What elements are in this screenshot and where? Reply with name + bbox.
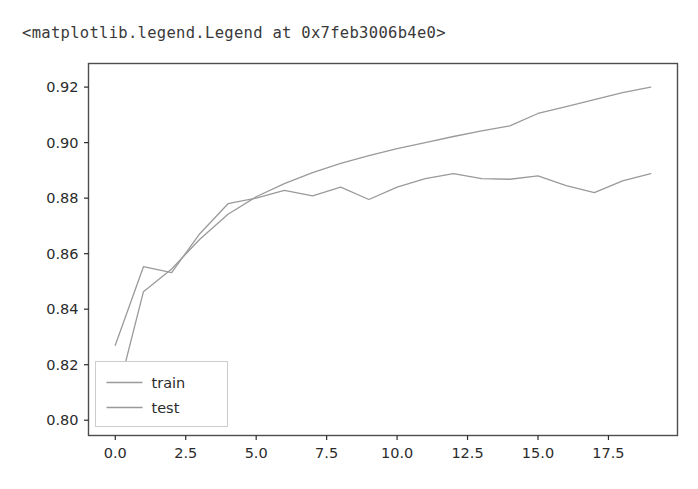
y-tick-label: 0.90: [46, 135, 78, 151]
notebook-output-cell: <matplotlib.legend.Legend at 0x7feb3006b…: [0, 0, 698, 489]
x-tick-label: 0.0: [104, 445, 127, 461]
y-tick-label: 0.92: [46, 79, 78, 95]
x-tick-label: 5.0: [245, 445, 268, 461]
x-tick-label: 7.5: [315, 445, 338, 461]
x-tick-label: 12.5: [451, 445, 483, 461]
legend-frame: [96, 362, 228, 427]
repr-output-text: <matplotlib.legend.Legend at 0x7feb3006b…: [22, 24, 446, 42]
legend-label-test: test: [152, 400, 180, 416]
y-tick-label: 0.86: [46, 246, 78, 262]
legend-label-train: train: [152, 375, 186, 391]
line-chart: 0.800.820.840.860.880.900.92 0.02.55.07.…: [0, 52, 698, 489]
y-tick-label: 0.80: [46, 412, 78, 428]
y-tick-label: 0.88: [46, 190, 78, 206]
y-tick-label: 0.82: [46, 357, 78, 373]
x-tick-label: 2.5: [174, 445, 197, 461]
x-tick-label: 15.0: [522, 445, 554, 461]
chart-legend[interactable]: traintest: [96, 362, 228, 427]
x-tick-label: 10.0: [381, 445, 413, 461]
y-tick-label: 0.84: [46, 301, 78, 317]
matplotlib-figure: 0.800.820.840.860.880.900.92 0.02.55.07.…: [0, 52, 698, 489]
x-tick-label: 17.5: [592, 445, 624, 461]
